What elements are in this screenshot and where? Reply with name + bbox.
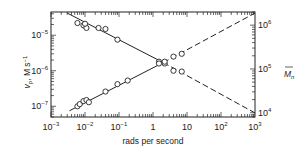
- svg-text:10−5: 10−5: [31, 29, 49, 40]
- log-log-chart: 10−310−210−1110102103 10−510−610−7 10610…: [0, 0, 300, 151]
- x-tick-labels: 10−310−210−1110102103: [43, 121, 263, 132]
- y-right-tick-labels: 106105104: [258, 19, 272, 118]
- svg-text:10−3: 10−3: [43, 121, 61, 132]
- svg-text:vp, M s−1: vp, M s−1: [22, 55, 33, 89]
- svg-text:104: 104: [258, 107, 272, 118]
- svg-text:10−2: 10−2: [77, 121, 95, 132]
- svg-text:1: 1: [150, 122, 155, 132]
- y-left-axis-title: vp, M s−1: [22, 55, 33, 89]
- svg-text:105: 105: [258, 63, 272, 74]
- svg-text:10: 10: [182, 122, 192, 132]
- svg-text:10−7: 10−7: [31, 100, 49, 111]
- svg-text:10−1: 10−1: [111, 121, 129, 132]
- svg-text:106: 106: [258, 19, 272, 30]
- y-left-tick-labels: 10−510−610−7: [31, 29, 49, 111]
- svg-text:103: 103: [248, 121, 262, 132]
- y-right-axis-title: Mn: [284, 67, 295, 80]
- x-axis-title: rads per second: [123, 136, 184, 146]
- svg-text:10−6: 10−6: [31, 65, 49, 76]
- svg-text:102: 102: [214, 121, 228, 132]
- svg-text:Mn: Mn: [284, 69, 295, 80]
